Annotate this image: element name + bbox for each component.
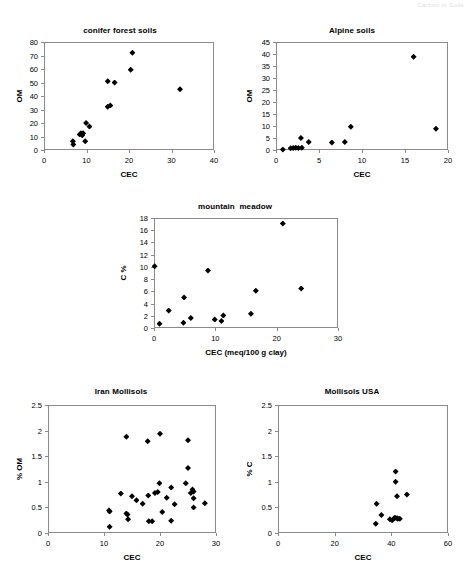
chart-title-iran-mollisols: Iran Mollisols — [14, 387, 228, 396]
ytick-mark — [41, 123, 44, 124]
ytick-mark — [273, 54, 276, 55]
chart-alpine-soils: Alpine soils05101520253035404505101520CE… — [244, 26, 460, 186]
ytick-mark — [273, 114, 276, 115]
ytick-label: 12 — [118, 250, 148, 259]
ytick-label: 45 — [244, 38, 270, 47]
xtick-mark — [104, 533, 105, 536]
xtick-mark — [278, 533, 279, 536]
xtick-mark — [405, 150, 406, 153]
y-axis-title-mollisols-usa: % C — [245, 461, 254, 476]
xtick-label: 20 — [444, 156, 452, 165]
ytick-label: 1 — [244, 477, 272, 486]
ytick-mark — [273, 138, 276, 139]
ytick-label: 0 — [244, 529, 272, 538]
xtick-mark — [391, 533, 392, 536]
ytick-mark — [41, 137, 44, 138]
xtick-mark — [277, 328, 278, 331]
ytick-label: 35 — [244, 62, 270, 71]
xtick-mark — [215, 328, 216, 331]
ytick-mark — [41, 83, 44, 84]
ytick-mark — [45, 456, 48, 457]
page-header: Carbon in Soils — [0, 0, 470, 12]
xtick-mark — [172, 150, 173, 153]
ytick-label: 1.5 — [244, 452, 272, 461]
plot-area-conifer-forest-soils — [44, 42, 214, 150]
y-axis-title-iran-mollisols: % OM — [15, 458, 24, 480]
x-axis-title-mountain-meadow: CEC (meq/100 g clay) — [205, 348, 286, 357]
ytick-mark — [151, 291, 154, 292]
ytick-mark — [41, 56, 44, 57]
ytick-mark — [41, 42, 44, 43]
xtick-mark — [448, 533, 449, 536]
xtick-mark — [129, 150, 130, 153]
plot-area-mollisols-usa — [278, 405, 448, 533]
xtick-label: 10 — [358, 156, 366, 165]
ytick-label: 0 — [118, 324, 148, 333]
plot-area-mountain-meadow — [154, 218, 338, 328]
y-axis-title-mountain-meadow: C % — [119, 265, 128, 280]
chart-title-mollisols-usa: Mollisols USA — [244, 387, 460, 396]
plot-area-iran-mollisols — [48, 405, 216, 533]
ytick-label: 2.5 — [244, 401, 272, 410]
ytick-mark — [275, 431, 278, 432]
ytick-label: 40 — [244, 50, 270, 59]
xtick-label: 20 — [125, 156, 133, 165]
xtick-label: 10 — [211, 334, 219, 343]
xtick-label: 40 — [210, 156, 218, 165]
plot-area-alpine-soils — [276, 42, 448, 150]
ytick-label: 15 — [244, 110, 270, 119]
xtick-mark — [160, 533, 161, 536]
xtick-label: 40 — [387, 539, 395, 548]
ytick-mark — [151, 230, 154, 231]
xtick-label: 30 — [167, 156, 175, 165]
ytick-label: 14 — [118, 238, 148, 247]
xtick-mark — [216, 533, 217, 536]
xtick-label: 15 — [401, 156, 409, 165]
xtick-mark — [338, 328, 339, 331]
xtick-label: 20 — [156, 539, 164, 548]
xtick-label: 30 — [334, 334, 342, 343]
ytick-mark — [45, 405, 48, 406]
ytick-mark — [275, 456, 278, 457]
xtick-mark — [154, 328, 155, 331]
ytick-mark — [151, 316, 154, 317]
ytick-mark — [41, 110, 44, 111]
ytick-mark — [151, 218, 154, 219]
ytick-mark — [45, 431, 48, 432]
ytick-label: 30 — [244, 74, 270, 83]
xtick-label: 0 — [274, 156, 278, 165]
ytick-mark — [273, 90, 276, 91]
ytick-label: 18 — [118, 214, 148, 223]
ytick-mark — [273, 42, 276, 43]
xtick-mark — [87, 150, 88, 153]
x-axis-title-iran-mollisols: CEC — [124, 553, 141, 562]
chart-conifer-forest-soils: conifer forest soils01020304050607080010… — [14, 26, 226, 186]
ytick-mark — [151, 255, 154, 256]
x-axis-title-mollisols-usa: CEC — [355, 553, 372, 562]
ytick-mark — [151, 279, 154, 280]
ytick-label: 50 — [14, 78, 38, 87]
xtick-label: 20 — [330, 539, 338, 548]
xtick-mark — [335, 533, 336, 536]
ytick-mark — [275, 507, 278, 508]
ytick-mark — [41, 69, 44, 70]
chart-mountain-meadow: mountain meadow0246810121416180102030CEC… — [118, 202, 352, 368]
ytick-mark — [275, 482, 278, 483]
chart-title-mountain-meadow: mountain meadow — [118, 202, 352, 211]
ytick-label: 70 — [14, 51, 38, 60]
xtick-mark — [48, 533, 49, 536]
ytick-label: 4 — [118, 299, 148, 308]
xtick-mark — [448, 150, 449, 153]
ytick-label: 0.5 — [244, 503, 272, 512]
ytick-mark — [275, 405, 278, 406]
ytick-mark — [273, 78, 276, 79]
ytick-label: 30 — [14, 105, 38, 114]
ytick-label: 2 — [14, 426, 42, 435]
ytick-label: 0 — [14, 529, 42, 538]
header-right-text: Carbon in Soils — [417, 2, 464, 8]
ytick-mark — [41, 96, 44, 97]
xtick-mark — [276, 150, 277, 153]
xtick-label: 30 — [212, 539, 220, 548]
ytick-label: 2.5 — [14, 401, 42, 410]
ytick-label: 16 — [118, 226, 148, 235]
